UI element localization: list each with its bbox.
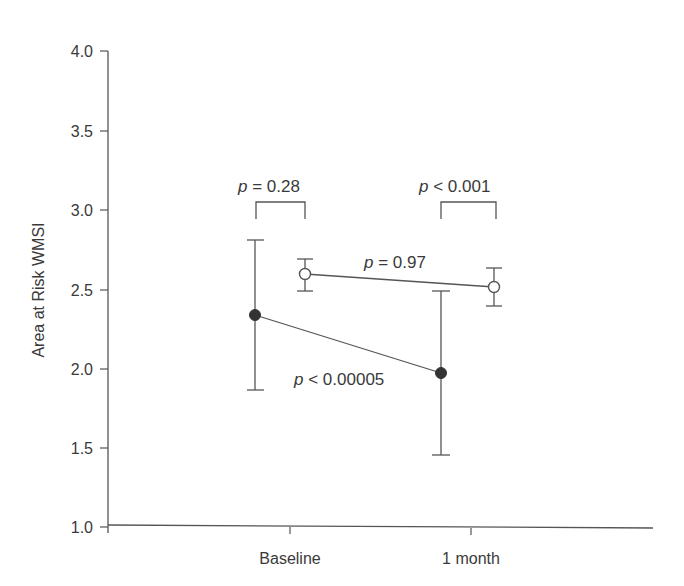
annotation-p-open-group: p = 0.97: [363, 253, 426, 272]
data-point-open-baseline: [300, 269, 311, 280]
chart-canvas: 4.0 3.5 3.0 2.5 2.0 1.5 1.0 Area at Risk…: [0, 0, 684, 586]
annotation-p-baseline: p = 0.28: [237, 177, 300, 196]
svg-text:3.0: 3.0: [71, 202, 93, 219]
svg-text:2.0: 2.0: [71, 361, 93, 378]
annotation-p-1-month: p < 0.001: [418, 177, 490, 196]
data-point-filled-baseline: [250, 310, 261, 321]
y-axis-label: Area at Risk WMSI: [30, 222, 47, 357]
x-ticks: [290, 527, 471, 535]
x-tick-1-month: 1 month: [442, 550, 500, 567]
svg-text:1.0: 1.0: [71, 519, 93, 536]
x-axis: [108, 525, 653, 528]
svg-text:1.5: 1.5: [71, 440, 93, 457]
svg-text:4.0: 4.0: [71, 43, 93, 60]
svg-text:3.5: 3.5: [71, 123, 93, 140]
data-point-open-1-month: [489, 282, 500, 293]
bracket-1-month: [441, 202, 496, 219]
data-point-filled-1-month: [436, 368, 447, 379]
y-tick-labels: 4.0 3.5 3.0 2.5 2.0 1.5 1.0: [71, 43, 93, 536]
annotation-p-filled-group: p < 0.00005: [293, 370, 384, 389]
bracket-baseline: [256, 202, 305, 219]
svg-text:2.5: 2.5: [71, 282, 93, 299]
y-ticks: [100, 51, 108, 527]
x-tick-baseline: Baseline: [259, 550, 320, 567]
series-filled: [247, 240, 450, 455]
